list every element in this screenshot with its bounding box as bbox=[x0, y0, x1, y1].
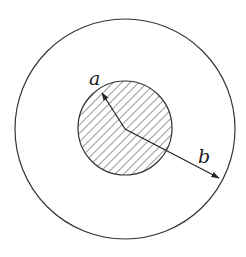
concentric-circles-diagram: a b bbox=[0, 0, 246, 257]
label-b: b bbox=[198, 145, 210, 167]
label-a: a bbox=[89, 67, 100, 89]
